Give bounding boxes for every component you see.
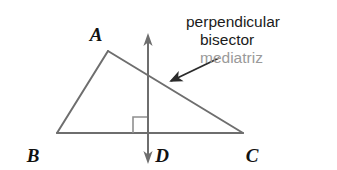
vertex-label-b: B [26,145,40,166]
callout-label: perpendicular bisector mediatriz [186,13,280,66]
vertex-label-a: A [89,24,103,45]
vertex-label-d: D [154,145,169,166]
right-angle-mark [133,117,148,133]
diagram-canvas: A B C D perpendicular bisector mediatriz [0,0,337,170]
callout-line-mediatriz: mediatriz [200,49,263,66]
callout-line-bisector: bisector [200,31,254,48]
perpendicular-bisector-line [143,33,152,164]
triangle-side-ab [57,51,108,133]
geometry-figure: A B C D perpendicular bisector mediatriz [0,0,337,170]
callout-line-perpendicular: perpendicular [186,13,280,30]
vertex-label-c: C [246,145,259,166]
